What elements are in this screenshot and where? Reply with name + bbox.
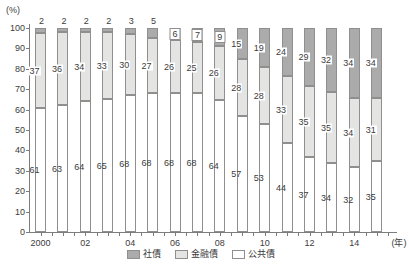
y-tick-label: 20	[3, 186, 25, 196]
x-tick-mark	[119, 233, 120, 236]
value-label-public: 37	[299, 190, 309, 199]
bar-07	[192, 28, 203, 232]
value-label-public: 34	[321, 193, 331, 202]
bar-06	[170, 28, 181, 232]
value-label-public: 53	[254, 174, 264, 183]
value-label-financial: 37	[28, 66, 40, 75]
x-tick-mark	[52, 233, 53, 236]
y-tick-label: 0	[3, 227, 25, 237]
value-label-financial: 33	[96, 61, 108, 70]
legend-label: 社債	[143, 249, 161, 260]
x-tick-mark	[197, 233, 198, 236]
x-tick-mark	[41, 233, 42, 236]
value-label-public: 68	[186, 158, 196, 167]
legend-swatch	[127, 250, 140, 259]
y-tick-label: 80	[3, 64, 25, 74]
x-tick-mark	[164, 233, 165, 236]
value-label-corporate: 6	[170, 28, 181, 40]
value-label-corporate: 2	[84, 17, 89, 26]
x-tick-label: 10	[260, 238, 270, 248]
value-label-financial: 34	[342, 128, 354, 137]
y-axis-unit-label: (%)	[6, 5, 20, 15]
x-tick-mark	[377, 233, 378, 236]
y-axis-line	[29, 24, 30, 232]
x-tick-label: 14	[349, 238, 359, 248]
value-label-financial: 28	[253, 91, 265, 100]
value-label-corporate: 29	[298, 53, 310, 62]
value-label-corporate: 34	[342, 59, 354, 68]
legend-label: 金融債	[191, 249, 218, 260]
value-label-corporate: 15	[230, 39, 242, 48]
segment-corporate	[147, 28, 158, 38]
legend-label: 公共債	[248, 249, 275, 260]
value-label-public: 68	[119, 159, 129, 168]
legend-swatch	[232, 250, 245, 259]
value-label-corporate: 19	[253, 43, 265, 52]
bar-01	[57, 28, 68, 232]
value-label-public: 63	[52, 164, 62, 173]
y-tick-label: 50	[3, 125, 25, 135]
value-label-public: 57	[231, 170, 241, 179]
x-tick-label: 06	[170, 238, 180, 248]
bar-05	[147, 28, 158, 232]
x-tick-mark	[220, 233, 221, 236]
legend-item-金融債: 金融債	[175, 249, 218, 260]
x-tick-mark	[298, 233, 299, 236]
chart-legend: 社債金融債公共債	[127, 249, 275, 260]
y-tick-label: 30	[3, 166, 25, 176]
x-tick-mark	[366, 233, 367, 236]
x-tick-mark	[175, 233, 176, 236]
legend-swatch	[175, 250, 188, 259]
value-label-financial: 26	[163, 62, 175, 71]
value-label-public: 32	[343, 195, 353, 204]
x-tick-mark	[231, 233, 232, 236]
x-tick-mark	[321, 233, 322, 236]
value-label-financial: 34	[73, 62, 85, 71]
value-label-corporate: 2	[106, 17, 111, 26]
value-label-corporate: 32	[320, 56, 332, 65]
bar-09	[237, 28, 248, 232]
x-tick-mark	[85, 233, 86, 236]
y-tick-label: 60	[3, 105, 25, 115]
value-label-financial: 31	[365, 125, 377, 134]
value-label-financial: 30	[118, 60, 130, 69]
x-tick-mark	[310, 233, 311, 236]
value-label-corporate: 2	[39, 17, 44, 26]
x-tick-mark	[388, 233, 389, 236]
x-tick-mark	[141, 233, 142, 236]
value-label-public: 44	[276, 183, 286, 192]
x-tick-mark	[63, 233, 64, 236]
value-label-financial: 36	[51, 64, 63, 73]
x-tick-label: 02	[80, 238, 90, 248]
value-label-financial: 33	[275, 105, 287, 114]
x-tick-mark	[186, 233, 187, 236]
x-tick-mark	[130, 233, 131, 236]
value-label-financial: 35	[320, 123, 332, 132]
x-tick-label: 2000	[30, 238, 50, 248]
value-label-corporate: 2	[61, 17, 66, 26]
value-label-corporate: 5	[151, 17, 156, 26]
x-tick-label: 12	[305, 238, 315, 248]
value-label-public: 68	[142, 158, 152, 167]
y-tick-label: 70	[3, 84, 25, 94]
value-label-public: 61	[29, 166, 39, 175]
x-tick-label: 08	[215, 238, 225, 248]
bar-08	[214, 28, 225, 232]
value-label-financial: 28	[230, 83, 242, 92]
x-tick-mark	[97, 233, 98, 236]
legend-item-社債: 社債	[127, 249, 161, 260]
x-tick-mark	[343, 233, 344, 236]
x-tick-mark	[276, 233, 277, 236]
value-label-corporate: 34	[365, 59, 377, 68]
value-label-public: 65	[97, 161, 107, 170]
bar-2000	[35, 28, 46, 232]
y-tick-label: 40	[3, 145, 25, 155]
value-label-corporate: 7	[192, 29, 203, 41]
x-tick-label: 04	[125, 238, 135, 248]
x-tick-mark	[242, 233, 243, 236]
x-tick-mark	[74, 233, 75, 236]
value-label-public: 35	[366, 192, 376, 201]
x-axis-unit-label: (年)	[392, 238, 407, 248]
value-label-corporate: 24	[275, 48, 287, 57]
value-label-public: 68	[164, 158, 174, 167]
